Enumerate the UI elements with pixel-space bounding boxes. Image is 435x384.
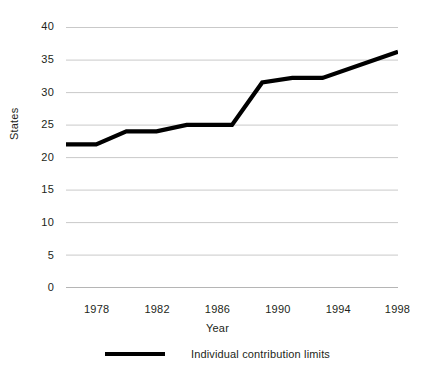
y-tick-label-35: 35 xyxy=(28,54,54,65)
y-tick-label-15: 15 xyxy=(28,184,54,195)
legend-entry-label: Individual contribution limits xyxy=(191,348,330,360)
caption-text xyxy=(8,374,427,384)
chart-legend: Individual contribution limits xyxy=(0,348,435,360)
x-tick-label-1990: 1990 xyxy=(255,303,301,315)
x-tick-label-1994: 1994 xyxy=(315,303,361,315)
y-tick-label-30: 30 xyxy=(28,87,54,98)
y-tick-label-5: 5 xyxy=(28,250,54,261)
y-axis-title: States xyxy=(9,108,20,140)
x-tick-label-1986: 1986 xyxy=(195,303,241,315)
x-tick-label-1998: 1998 xyxy=(375,303,421,315)
y-tick-label-10: 10 xyxy=(28,217,54,228)
series-line-individual-contribution-limits xyxy=(66,52,398,145)
chart-canvas xyxy=(66,27,398,288)
x-tick-label-1982: 1982 xyxy=(134,303,180,315)
plot-area xyxy=(66,27,398,288)
legend-line-swatch xyxy=(105,352,165,356)
y-tick-label-25: 25 xyxy=(28,119,54,130)
x-axis-tick-labels: 1978 1982 1986 1990 1994 1998 xyxy=(0,303,435,319)
x-axis-title: Year xyxy=(0,322,435,334)
y-tick-label-20: 20 xyxy=(28,152,54,163)
legend-entry-individual-contribution-limits: Individual contribution limits xyxy=(105,348,330,360)
chart-figure: States 40 35 30 25 20 15 10 5 0 xyxy=(0,0,435,384)
x-tick-label-1978: 1978 xyxy=(74,303,120,315)
gridlines xyxy=(66,28,398,256)
y-tick-label-0: 0 xyxy=(28,282,54,293)
y-tick-label-40: 40 xyxy=(28,21,54,32)
